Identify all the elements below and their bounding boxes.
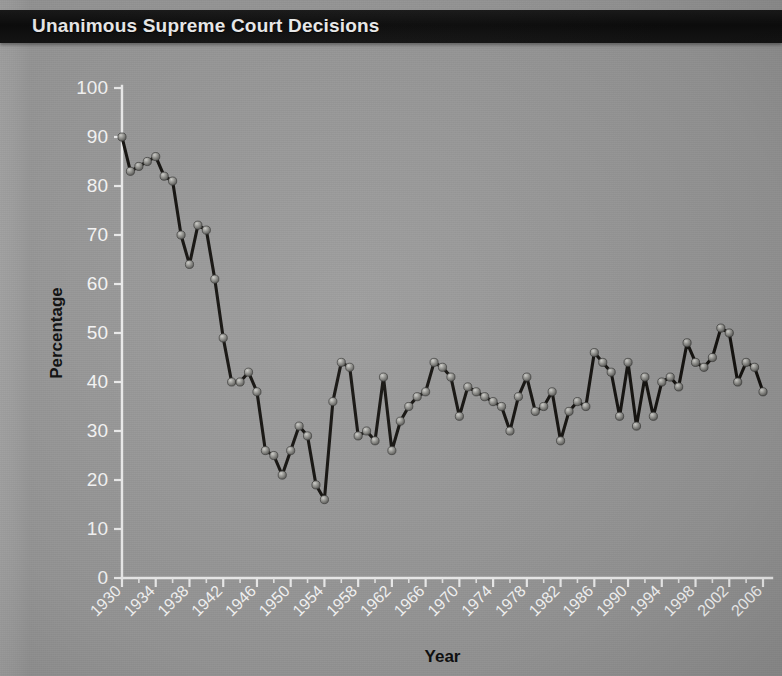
x-tick-label: 1930 bbox=[87, 582, 124, 619]
data-point bbox=[489, 398, 497, 406]
data-point bbox=[725, 329, 733, 337]
data-point bbox=[759, 388, 767, 396]
data-point bbox=[540, 402, 548, 410]
x-axis-title: Year bbox=[425, 647, 461, 666]
data-point bbox=[219, 334, 227, 342]
data-point bbox=[506, 427, 514, 435]
data-point bbox=[599, 358, 607, 366]
data-point bbox=[278, 471, 286, 479]
data-point bbox=[624, 358, 632, 366]
data-point bbox=[354, 432, 362, 440]
data-point bbox=[312, 481, 320, 489]
data-point bbox=[481, 393, 489, 401]
data-point bbox=[582, 402, 590, 410]
data-point bbox=[691, 358, 699, 366]
data-point bbox=[228, 378, 236, 386]
data-point bbox=[616, 412, 624, 420]
y-tick-label: 80 bbox=[87, 175, 108, 196]
data-point bbox=[169, 177, 177, 185]
data-point bbox=[362, 427, 370, 435]
data-point bbox=[303, 432, 311, 440]
data-point bbox=[194, 221, 202, 229]
data-point bbox=[649, 412, 657, 420]
x-tick-label: 1998 bbox=[660, 582, 697, 619]
data-point bbox=[447, 373, 455, 381]
data-point bbox=[607, 368, 615, 376]
data-point bbox=[135, 162, 143, 170]
axis-layer bbox=[114, 86, 772, 587]
data-point bbox=[464, 383, 472, 391]
line-chart-svg: 0102030405060708090100193019341938194219… bbox=[0, 0, 782, 676]
data-point bbox=[295, 422, 303, 430]
data-point bbox=[683, 339, 691, 347]
data-point bbox=[556, 437, 564, 445]
x-tick-label: 1942 bbox=[188, 582, 225, 619]
data-point bbox=[244, 368, 252, 376]
data-point bbox=[632, 422, 640, 430]
y-axis-title: Percentage bbox=[47, 287, 66, 379]
data-point bbox=[438, 363, 446, 371]
data-point bbox=[337, 358, 345, 366]
y-tick-label: 60 bbox=[87, 273, 108, 294]
data-point bbox=[717, 324, 725, 332]
y-tick-label: 10 bbox=[87, 518, 108, 539]
data-point bbox=[287, 447, 295, 455]
data-point bbox=[160, 172, 168, 180]
data-point bbox=[734, 378, 742, 386]
data-point bbox=[371, 437, 379, 445]
data-point bbox=[514, 393, 522, 401]
data-point bbox=[320, 496, 328, 504]
data-point bbox=[708, 353, 716, 361]
data-point bbox=[379, 373, 387, 381]
data-point bbox=[497, 402, 505, 410]
data-point bbox=[472, 388, 480, 396]
data-point bbox=[742, 358, 750, 366]
data-point bbox=[455, 412, 463, 420]
data-point bbox=[253, 388, 261, 396]
y-tick-label: 40 bbox=[87, 371, 108, 392]
x-tick-label: 1970 bbox=[424, 582, 461, 619]
y-tick-label: 70 bbox=[87, 224, 108, 245]
data-point bbox=[236, 378, 244, 386]
data-point bbox=[202, 226, 210, 234]
data-point bbox=[177, 231, 185, 239]
data-point bbox=[430, 358, 438, 366]
x-tick-label: 1946 bbox=[222, 582, 259, 619]
data-point bbox=[700, 363, 708, 371]
y-tick-label: 90 bbox=[87, 126, 108, 147]
data-point bbox=[641, 373, 649, 381]
data-point bbox=[666, 373, 674, 381]
data-point bbox=[422, 388, 430, 396]
data-point bbox=[211, 275, 219, 283]
data-point bbox=[346, 363, 354, 371]
data-point bbox=[675, 383, 683, 391]
data-point bbox=[396, 417, 404, 425]
data-point bbox=[413, 393, 421, 401]
x-tick-label: 1954 bbox=[289, 582, 326, 619]
x-tick-label: 1950 bbox=[256, 582, 293, 619]
y-tick-label: 20 bbox=[87, 469, 108, 490]
data-point bbox=[750, 363, 758, 371]
x-tick-label: 1938 bbox=[154, 582, 191, 619]
data-line bbox=[122, 137, 763, 500]
data-point bbox=[329, 398, 337, 406]
data-point bbox=[548, 388, 556, 396]
chart-plot-area: 0102030405060708090100193019341938194219… bbox=[0, 0, 782, 676]
data-series-layer bbox=[118, 133, 767, 504]
x-tick-label: 1958 bbox=[323, 582, 360, 619]
data-point bbox=[405, 402, 413, 410]
data-point bbox=[143, 157, 151, 165]
data-point bbox=[590, 349, 598, 357]
y-tick-label: 30 bbox=[87, 420, 108, 441]
data-point bbox=[185, 260, 193, 268]
data-point bbox=[126, 167, 134, 175]
x-tick-label: 1962 bbox=[357, 582, 394, 619]
data-point bbox=[388, 447, 396, 455]
x-tick-label: 1978 bbox=[492, 582, 529, 619]
x-tick-label: 1982 bbox=[526, 582, 563, 619]
data-point bbox=[565, 407, 573, 415]
x-tick-label: 2006 bbox=[728, 582, 765, 619]
data-point bbox=[531, 407, 539, 415]
data-point bbox=[118, 133, 126, 141]
y-tick-label: 100 bbox=[76, 77, 108, 98]
